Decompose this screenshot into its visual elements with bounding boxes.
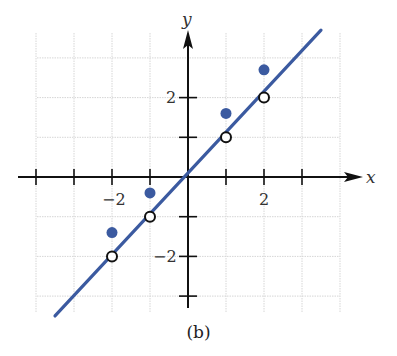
x-tick-label-2: 2 <box>259 190 269 209</box>
x-tick-label-neg2: −2 <box>102 190 126 209</box>
figure-caption: (b) <box>0 322 397 342</box>
y-axis-label: y <box>181 9 192 29</box>
data-point-filled <box>145 187 156 198</box>
y-tick-label-2: 2 <box>166 88 176 107</box>
chart-plot: x y −2 2 2 −2 <box>0 0 397 356</box>
data-point-open <box>145 212 155 222</box>
x-axis-label: x <box>366 167 376 187</box>
data-point-filled <box>221 108 232 119</box>
y-tick-label-neg2: −2 <box>153 247 177 266</box>
data-point-open <box>259 93 269 103</box>
data-point-open <box>107 251 117 261</box>
data-point-open <box>221 132 231 142</box>
data-point-filled <box>259 64 270 75</box>
data-point-filled <box>107 227 118 238</box>
